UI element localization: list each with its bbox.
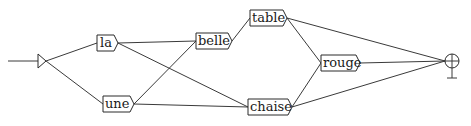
- node-label: la: [100, 35, 112, 50]
- edges: [46, 18, 445, 107]
- edge-init-une: [46, 61, 103, 104]
- edge-init-la: [46, 43, 97, 61]
- edge-la-chaise: [118, 43, 248, 107]
- edge-table-final: [287, 18, 445, 61]
- node-label: une: [105, 96, 130, 111]
- node-label: chaise: [250, 99, 292, 114]
- edge-une-belle: [134, 41, 196, 104]
- node-table[interactable]: table: [250, 10, 287, 26]
- edge-chaise-final: [292, 61, 445, 107]
- final-state-icon[interactable]: [445, 54, 459, 78]
- edge-une-chaise: [134, 104, 248, 107]
- node-belle[interactable]: belle: [196, 33, 232, 49]
- node-chaise[interactable]: chaise: [248, 99, 292, 115]
- edge-rouge-final: [360, 61, 445, 63]
- node-une[interactable]: une: [103, 96, 134, 112]
- node-label: table: [252, 10, 285, 25]
- edge-table-rouge: [287, 18, 321, 63]
- node-label: belle: [198, 33, 230, 48]
- automaton-graph: la une belle table chaise rouge: [0, 0, 471, 126]
- edge-belle-table: [232, 18, 250, 41]
- node-rouge[interactable]: rouge: [321, 55, 362, 71]
- edge-la-belle: [118, 41, 196, 43]
- node-la[interactable]: la: [97, 35, 118, 51]
- edge-chaise-rouge: [292, 63, 321, 107]
- initial-state-icon[interactable]: [38, 54, 46, 68]
- node-label: rouge: [323, 55, 362, 70]
